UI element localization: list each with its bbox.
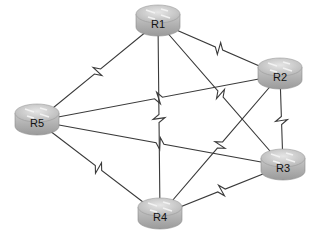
router-r5: R5 xyxy=(15,104,59,135)
router-r4: R4 xyxy=(138,198,182,229)
router-label: R3 xyxy=(276,162,290,174)
router-r2: R2 xyxy=(258,58,302,89)
router-label: R4 xyxy=(153,211,167,223)
router-label: R2 xyxy=(273,71,287,83)
router-label: R1 xyxy=(151,18,165,30)
router-r3: R3 xyxy=(261,149,305,180)
router-label: R5 xyxy=(30,117,44,129)
network-diagram: R1 R2 R3 R4 R5 xyxy=(0,0,320,242)
router-r1: R1 xyxy=(136,5,180,36)
routers-layer: R1 R2 R3 R4 R5 xyxy=(0,0,320,242)
